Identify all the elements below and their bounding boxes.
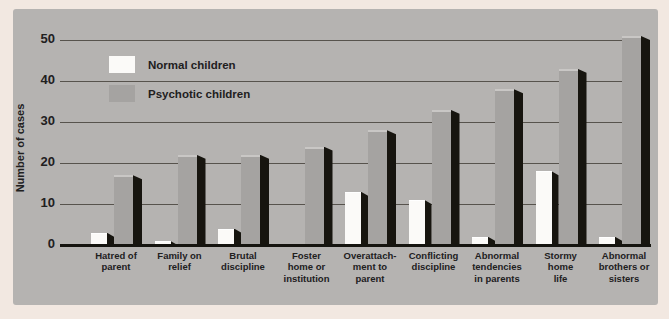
bar-psychotic-shadow (324, 147, 333, 245)
legend-label-psychotic-children: Psychotic children (148, 88, 250, 100)
bar-psychotic-children (305, 147, 324, 245)
bar-psychotic-children (495, 89, 514, 245)
bar-psychotic-children (622, 36, 641, 245)
bar-psychotic-shadow (641, 36, 650, 245)
legend-item-psychotic-children: Psychotic children (109, 85, 250, 102)
chart-panel: Number of cases Normal children Psychoti… (13, 9, 658, 305)
bar-psychotic-shadow (387, 130, 396, 245)
bar-psychotic-children (432, 110, 451, 245)
bar-psychotic-children (114, 175, 133, 245)
bar-psychotic-shadow (514, 89, 523, 245)
gridline (60, 40, 650, 41)
bar-psychotic-shadow (197, 155, 206, 245)
legend-item-normal-children: Normal children (109, 56, 250, 73)
legend-swatch-psychotic-children (109, 85, 135, 102)
bar-normal-shadow (425, 200, 432, 245)
bar-psychotic-children (559, 69, 578, 245)
y-tick-label: 50 (19, 31, 55, 46)
x-category-label: Overattach- ment to parent (334, 250, 406, 284)
x-category-label: Stormy home life (525, 250, 597, 284)
y-tick-label: 0 (19, 236, 55, 251)
bar-psychotic-children (178, 155, 197, 245)
legend-label-normal-children: Normal children (148, 59, 236, 71)
x-category-label: Hatred of parent (80, 250, 152, 273)
x-category-label: Brutal discipline (207, 250, 279, 273)
bar-normal-shadow (361, 192, 368, 245)
x-category-label: Foster home or institution (271, 250, 343, 284)
bar-psychotic-shadow (260, 155, 269, 245)
bar-psychotic-shadow (451, 110, 460, 245)
bar-normal-children (345, 192, 361, 245)
bar-normal-shadow (552, 171, 559, 245)
bar-normal-children (536, 171, 552, 245)
bar-psychotic-children (368, 130, 387, 245)
bar-psychotic-children (241, 155, 260, 245)
x-category-label: Abnormal tendencies in parents (461, 250, 533, 284)
x-category-label: Abnormal brothers or sisters (588, 250, 660, 284)
bar-psychotic-shadow (578, 69, 587, 245)
x-category-label: Conflicting discipline (398, 250, 470, 273)
bar-psychotic-shadow (133, 175, 142, 245)
figure: Number of cases Normal children Psychoti… (0, 0, 669, 319)
y-axis-title: Number of cases (14, 78, 30, 218)
x-axis-line (60, 244, 651, 247)
bar-normal-children (409, 200, 425, 245)
x-category-label: Family on relief (144, 250, 216, 273)
bar-normal-shadow (234, 229, 241, 245)
legend: Normal children Psychotic children (109, 56, 250, 114)
bar-normal-children (218, 229, 234, 245)
legend-swatch-normal-children (109, 56, 135, 73)
